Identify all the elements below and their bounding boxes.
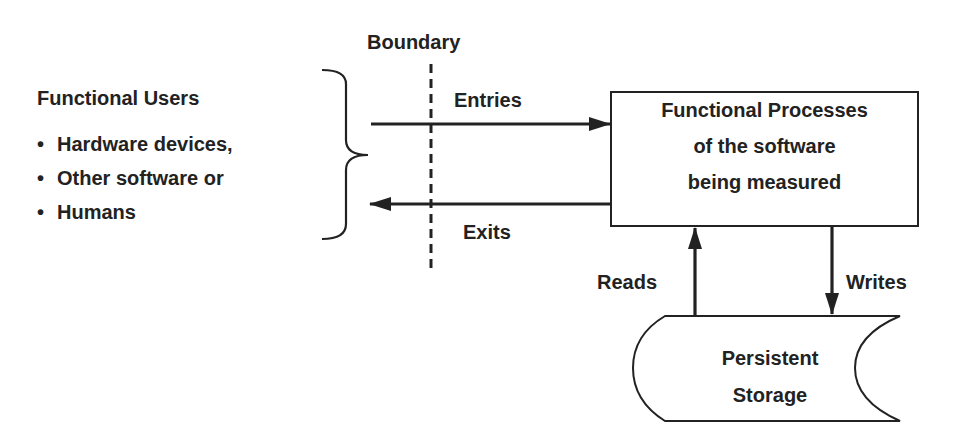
users-brace (322, 70, 368, 239)
persistent-storage-text: Persistent Storage (640, 340, 900, 414)
user-item-label: Other software or (57, 167, 224, 189)
bullet-icon: • (37, 127, 57, 161)
user-item-label: Humans (57, 201, 136, 223)
process-line: of the software (612, 128, 917, 164)
writes-label: Writes (846, 272, 907, 292)
storage-line: Persistent (640, 340, 900, 377)
storage-line: Storage (640, 377, 900, 414)
user-item-humans: •Humans (37, 195, 233, 229)
reads-label: Reads (597, 272, 657, 292)
boundary-label: Boundary (367, 32, 460, 52)
functional-process-text: Functional Processes of the software bei… (612, 92, 917, 200)
process-line: being measured (612, 164, 917, 200)
functional-users-list: •Hardware devices, •Other software or •H… (37, 127, 233, 229)
entries-label: Entries (454, 90, 522, 110)
user-item-software: •Other software or (37, 161, 233, 195)
bullet-icon: • (37, 195, 57, 229)
user-item-label: Hardware devices, (57, 133, 233, 155)
exits-label: Exits (463, 222, 511, 242)
user-item-hardware: •Hardware devices, (37, 127, 233, 161)
process-line: Functional Processes (612, 92, 917, 128)
bullet-icon: • (37, 161, 57, 195)
functional-users-title: Functional Users (37, 88, 199, 108)
